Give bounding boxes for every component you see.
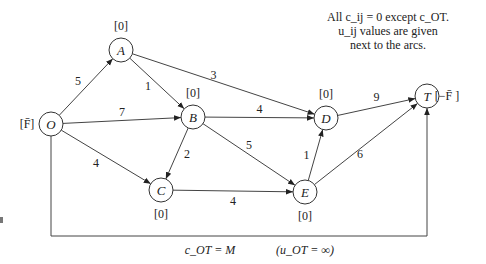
arc-line [173,190,293,192]
node-E: E [293,180,317,204]
node-label: D [320,111,331,126]
capacity-label: 9 [374,90,380,104]
arc-line [132,54,314,114]
node-supply-annotation: [0] [298,209,312,223]
arc-line [205,117,314,118]
node-supply-annotation: [F̄] [20,117,35,131]
capacity-label: 4 [93,156,99,170]
node-supply-annotation: [−F̄ ] [435,89,459,103]
node-label: O [46,117,56,132]
capacity-label: 5 [246,138,252,152]
node-label: B [189,110,197,125]
arc-B-E [203,124,295,186]
arc-B-D [205,117,314,118]
capacity-label: 5 [75,74,81,88]
arc-line [203,124,295,186]
arc-line [61,130,150,184]
arc-A-B [130,58,184,109]
capacity-label: 7 [119,105,125,119]
capacity-label: 6 [357,147,363,161]
capacity-label: 4 [230,194,236,208]
network-diagram: OABCDET 574132454196c_OT = M(u_OT = ∞)[F… [0,0,486,264]
node-D: D [314,106,338,130]
arc-line [51,108,427,236]
arc-O-C [61,130,150,184]
node-label: E [300,185,309,200]
arc-line [130,58,184,109]
node-label: T [423,89,431,104]
arc-E-D [308,130,322,181]
arc-line [59,59,113,116]
arc-capacity-label: (u_OT = ∞) [276,243,334,257]
node-B: B [181,105,205,129]
arc-O-A [59,59,113,116]
node-C: C [149,178,173,202]
node-supply-annotation: [0] [154,207,168,221]
node-supply-annotation: [0] [114,19,128,33]
node-A: A [109,38,133,62]
capacity-label: 1 [304,148,310,162]
node-supply-annotation: [0] [319,87,333,101]
capacity-label: 2 [184,147,190,161]
capacity-label: 4 [257,102,263,116]
arc-O-T [51,108,427,236]
capacity-label: 1 [145,79,151,93]
arc-line [308,130,322,181]
node-O: O [39,112,63,136]
arc-A-D [132,54,314,114]
node-label: A [116,43,125,58]
node-label: C [157,183,166,198]
node-supply-annotation: [0] [186,86,200,100]
arc-cost-label: c_OT = M [185,243,237,257]
capacity-label: 3 [211,68,217,82]
arc-C-E [173,190,293,192]
